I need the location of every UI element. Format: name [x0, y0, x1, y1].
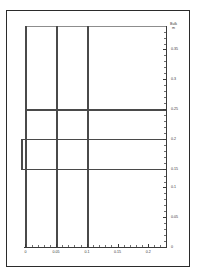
y-minor-tick: [164, 223, 166, 224]
y-minor-tick: [164, 97, 166, 98]
y-minor-tick: [164, 85, 166, 86]
y-minor-tick: [164, 121, 166, 122]
y-tick-label-02: 0.2: [171, 137, 176, 141]
plot-box-top: [26, 26, 167, 27]
y-minor-tick: [164, 199, 166, 200]
y-tick-015: [163, 169, 166, 170]
y-tick-0: [163, 247, 166, 248]
y-minor-tick: [164, 32, 166, 33]
y-minor-tick: [164, 127, 166, 128]
y-minor-tick: [164, 211, 166, 212]
y-tick-label-005: 0.05: [171, 215, 178, 219]
y-minor-tick: [164, 235, 166, 236]
data-left-segment: [21, 139, 23, 170]
y-minor-tick: [164, 91, 166, 92]
y-axis-title: Bulk m: [170, 22, 177, 30]
x-minor-tick: [111, 245, 112, 247]
y-minor-tick: [164, 151, 166, 152]
x-tick-label-005: 0.05: [53, 250, 60, 254]
x-minor-tick: [160, 245, 161, 247]
y-minor-tick: [164, 193, 166, 194]
y-tick-005: [163, 217, 166, 218]
y-axis-spine: [166, 26, 167, 248]
y-minor-tick: [164, 145, 166, 146]
y-minor-tick: [164, 205, 166, 206]
y-tick-label-01: 0.1: [171, 185, 176, 189]
x-minor-tick: [154, 245, 155, 247]
y-tick-label-025: 0.25: [171, 107, 178, 111]
x-minor-tick: [44, 245, 45, 247]
x-minor-tick: [124, 245, 125, 247]
x-tick-0: [25, 244, 26, 247]
x-minor-tick: [38, 245, 39, 247]
y-minor-tick: [164, 176, 166, 177]
x-minor-tick: [50, 245, 51, 247]
y-minor-tick: [164, 163, 166, 164]
y-minor-tick: [164, 73, 166, 74]
y-minor-tick: [164, 67, 166, 68]
data-vline-x005: [56, 26, 58, 248]
data-hline-y025: [25, 109, 166, 111]
y-tick-035: [163, 49, 166, 50]
x-tick-label-01: 0.1: [85, 250, 90, 254]
y-minor-tick: [164, 61, 166, 62]
y-minor-tick: [164, 241, 166, 242]
y-tick-label-0: 0: [171, 245, 173, 249]
data-vline-x010: [87, 26, 89, 248]
y-tick-label-035: 0.35: [171, 47, 178, 51]
plot-area: 0 0.05 0.1 0.15 0.2: [0, 0, 197, 277]
x-minor-tick: [99, 245, 100, 247]
data-vline-x0: [25, 26, 27, 248]
x-minor-tick: [62, 245, 63, 247]
y-minor-tick: [164, 229, 166, 230]
y-tick-01: [163, 187, 166, 188]
x-minor-tick: [93, 245, 94, 247]
data-hline-y020: [21, 139, 166, 141]
y-minor-tick: [164, 44, 166, 45]
x-tick-label-0: 0: [24, 250, 26, 254]
y-minor-tick: [164, 157, 166, 158]
y-axis-title-line2: m: [170, 26, 177, 30]
x-minor-tick: [81, 245, 82, 247]
x-tick-01: [87, 244, 88, 247]
x-minor-tick: [68, 245, 69, 247]
x-axis-spine: [24, 247, 167, 248]
y-tick-label-015: 0.15: [171, 167, 178, 171]
y-minor-tick: [164, 103, 166, 104]
y-tick-02: [163, 139, 166, 140]
figure-page: 0 0.05 0.1 0.15 0.2: [0, 0, 197, 277]
x-tick-02: [148, 244, 149, 247]
y-minor-tick: [164, 115, 166, 116]
x-tick-label-015: 0.15: [114, 250, 121, 254]
x-minor-tick: [32, 245, 33, 247]
x-tick-015: [118, 244, 119, 247]
x-minor-tick: [130, 245, 131, 247]
y-tick-label-03: 0.3: [171, 77, 176, 81]
data-hline-y015: [21, 169, 166, 171]
y-minor-tick: [164, 182, 166, 183]
y-minor-tick: [164, 38, 166, 39]
x-tick-label-02: 0.2: [146, 250, 151, 254]
x-minor-tick: [136, 245, 137, 247]
x-minor-tick: [74, 245, 75, 247]
y-tick-025: [163, 109, 166, 110]
y-minor-tick: [164, 55, 166, 56]
x-minor-tick: [142, 245, 143, 247]
x-minor-tick: [105, 245, 106, 247]
y-minor-tick: [164, 133, 166, 134]
x-tick-005: [56, 244, 57, 247]
y-tick-03: [163, 79, 166, 80]
